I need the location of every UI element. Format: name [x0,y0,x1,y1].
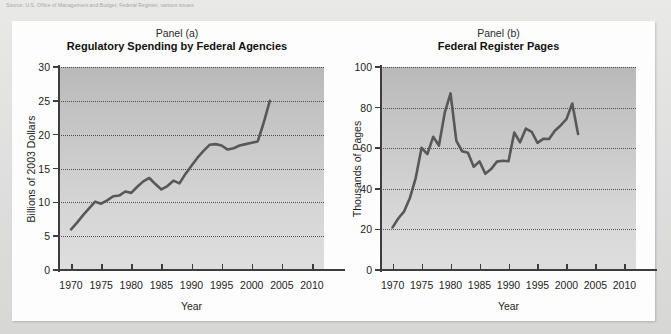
y-axis-tick-label: 0 [366,264,372,276]
x-axis-tick-label: 1985 [468,279,491,291]
x-axis-tick-label: 2000 [240,279,263,291]
x-axis-tick-label: 1995 [526,279,549,291]
panel-b-series-line [381,67,636,270]
y-axis-tick-label: 30 [38,61,50,73]
panel-b-x-axis-title: Year [381,300,636,312]
panel-b-y-axis-title: Thousands of Pages [351,120,363,216]
y-axis-tick-label: 20 [360,223,372,235]
x-axis-tick-label: 1980 [439,279,462,291]
y-axis-tick-label: 5 [44,230,50,242]
y-axis-tick-label: 100 [354,61,372,73]
x-axis-tick-label: 2010 [613,279,636,291]
x-axis-tick-label: 1990 [497,279,520,291]
panel-a-title: Regulatory Spending by Federal Agencies [12,40,342,52]
y-axis-tick-label: 25 [38,95,50,107]
panel-a-plot-area: 051015202530 197019751980198519901995200… [59,67,324,270]
x-axis-tick-label: 1970 [381,279,404,291]
y-axis-tick-label: 20 [38,129,50,141]
panel-a-subtitle: Panel (a) [12,27,342,39]
x-axis-tick-label: 2005 [584,279,607,291]
x-axis-tick-label: 1980 [120,279,143,291]
y-axis-tick-label: 10 [38,196,50,208]
x-axis-tick-label: 2000 [555,279,578,291]
y-axis-tick-label: 15 [38,163,50,175]
panel-a-series-line [59,67,324,270]
x-axis-tick-label: 1995 [210,279,233,291]
y-axis-tick-label: 80 [360,102,372,114]
panel-a: Panel (a) Regulatory Spending by Federal… [12,21,342,321]
panel-b-title: Federal Register Pages [342,40,655,52]
panel-b-subtitle: Panel (b) [342,27,655,39]
y-axis-tick-label: 0 [44,264,50,276]
panel-a-x-axis-title: Year [59,300,324,312]
figure-page: Source: U.S. Office of Management and Bu… [0,0,671,334]
x-axis-tick-label: 1975 [410,279,433,291]
panel-b-plot-area: 020406080100 197019751980198519901995200… [381,67,636,270]
x-axis-tick-label: 2010 [300,279,323,291]
x-axis-tick-label: 1985 [150,279,173,291]
x-axis-tick-label: 1990 [180,279,203,291]
panel-b: Panel (b) Federal Register Pages 0204060… [342,21,655,321]
x-axis-tick-label: 2005 [270,279,293,291]
figure-card: Panel (a) Regulatory Spending by Federal… [12,21,655,321]
source-caption: Source: U.S. Office of Management and Bu… [0,0,671,12]
panel-a-y-axis-title: Billions of 2003 Dollars [25,115,37,222]
x-axis-tick-label: 1975 [89,279,112,291]
x-axis-tick-label: 1970 [59,279,82,291]
